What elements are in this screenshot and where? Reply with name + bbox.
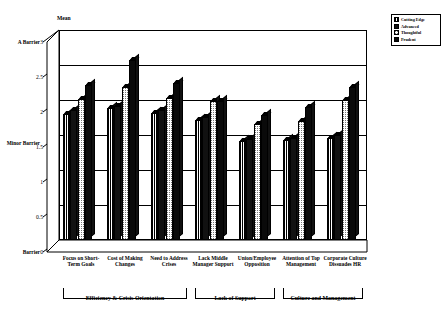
x-category-label: Need to Address Crises bbox=[145, 255, 193, 268]
legend-item[interactable]: Thoughtful bbox=[394, 30, 438, 35]
bar-side-face bbox=[355, 81, 359, 237]
y-tick-label: 1.5 bbox=[23, 144, 43, 150]
bar-group bbox=[239, 30, 283, 240]
bar-side-face bbox=[311, 101, 315, 237]
bar bbox=[261, 115, 268, 240]
bar bbox=[114, 106, 121, 240]
bar bbox=[195, 120, 202, 240]
legend-item[interactable]: Cutting Edge bbox=[394, 17, 438, 22]
bar bbox=[129, 60, 136, 240]
legend[interactable]: Cutting EdgeAdvancedThoughtfulPrudent bbox=[391, 14, 441, 46]
legend-swatch-icon bbox=[394, 37, 399, 42]
bar-group bbox=[151, 30, 195, 240]
bar-group bbox=[327, 30, 371, 240]
y-tick-label: 1 bbox=[23, 179, 43, 185]
x-category-label: Corporate Culture Dissuades HR bbox=[321, 255, 369, 268]
y-tick-label: 2 bbox=[23, 109, 43, 115]
bar bbox=[210, 101, 217, 240]
bar bbox=[217, 101, 224, 240]
bar bbox=[85, 85, 92, 240]
bar bbox=[254, 124, 261, 240]
y-tick-label: 0 bbox=[23, 249, 43, 255]
bar bbox=[202, 117, 209, 240]
bar bbox=[342, 100, 349, 240]
bar-side-face bbox=[223, 95, 227, 237]
x-category-label: Focus on Short-Term Goals bbox=[57, 255, 105, 268]
y-tick-label: 2.5 bbox=[23, 74, 43, 80]
legend-label: Cutting Edge bbox=[401, 17, 425, 22]
legend-swatch-icon bbox=[394, 30, 399, 35]
x-category-label: Lack Middle Manager Support bbox=[189, 255, 237, 268]
bar bbox=[327, 138, 334, 240]
bar-group bbox=[195, 30, 239, 240]
bar-side-face bbox=[91, 78, 95, 237]
bar-group bbox=[107, 30, 151, 240]
bar bbox=[107, 108, 114, 240]
bar-group bbox=[63, 30, 107, 240]
bar bbox=[305, 107, 312, 240]
y-axis-title: Mean bbox=[57, 15, 71, 21]
group-bracket-label: Lack of Support bbox=[195, 295, 275, 301]
bar bbox=[349, 87, 356, 240]
bar bbox=[166, 98, 173, 240]
x-category-label: Attention of Top Management bbox=[277, 255, 325, 268]
plot-area bbox=[47, 30, 367, 252]
legend-item[interactable]: Advanced bbox=[394, 24, 438, 29]
bar-group bbox=[283, 30, 327, 240]
legend-swatch-icon bbox=[394, 17, 399, 22]
bar bbox=[122, 87, 129, 240]
x-category-label: Cost of Making Changes bbox=[101, 255, 149, 268]
legend-swatch-icon bbox=[394, 24, 399, 29]
legend-label: Thoughtful bbox=[401, 30, 421, 35]
bar bbox=[334, 135, 341, 240]
bar-side-face bbox=[267, 109, 271, 237]
legend-label: Prudent bbox=[401, 37, 416, 42]
y-tick-label: 3 bbox=[23, 39, 43, 45]
group-bracket-label: Efficiency & Crisis Orientation bbox=[63, 295, 187, 301]
bar-side-face bbox=[135, 54, 139, 237]
bar bbox=[246, 139, 253, 241]
bar bbox=[283, 140, 290, 240]
bar bbox=[239, 141, 246, 240]
bar bbox=[173, 83, 180, 240]
chart-root: Mean A BarrierMinor BarrierBarrier 00.51… bbox=[0, 0, 445, 312]
bar bbox=[63, 114, 70, 240]
bar bbox=[290, 138, 297, 240]
y-tick-label: 0.5 bbox=[23, 214, 43, 220]
bar bbox=[298, 121, 305, 240]
legend-item[interactable]: Prudent bbox=[394, 37, 438, 42]
bar bbox=[70, 110, 77, 240]
x-category-label: Union/Employee Opposition bbox=[233, 255, 281, 268]
bar bbox=[78, 99, 85, 240]
legend-label: Advanced bbox=[401, 24, 419, 29]
bar bbox=[158, 110, 165, 240]
group-bracket-label: Culture and Management bbox=[283, 295, 363, 301]
bar bbox=[151, 113, 158, 240]
bar-side-face bbox=[179, 77, 183, 237]
